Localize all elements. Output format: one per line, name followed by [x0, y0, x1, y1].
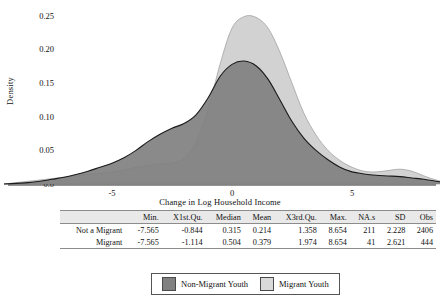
legend-item-non-migrant: Non-Migrant Youth	[162, 277, 248, 291]
table-cell: 0.214	[244, 224, 274, 237]
table-row: Not a Migrant -7.565 -0.844 0.315 0.214 …	[60, 224, 436, 237]
table-header-cell: X3rd.Qu.	[274, 211, 320, 224]
x-axis-label: Change in Log Household Income	[0, 197, 440, 207]
table-cell: -0.844	[162, 224, 206, 237]
density-curves	[0, 0, 440, 212]
table-cell: 0.315	[206, 224, 244, 237]
table-cell: 2.228	[378, 224, 408, 237]
legend-swatch-icon	[162, 277, 176, 291]
table-header-cell: Median	[206, 211, 244, 224]
plot-area: Density 0.25 0.20 0.15 0.10 0.05 0.0 -5 …	[0, 0, 440, 212]
summary-statistics-table: Min. X1st.Qu. Median Mean X3rd.Qu. Max. …	[60, 210, 436, 249]
table-header-cell: Obs	[408, 211, 436, 224]
chart-legend: Non-Migrant Youth Migrant Youth	[151, 273, 340, 295]
table-header-cell: NA.s	[350, 211, 378, 224]
table-header-cell: Mean	[244, 211, 274, 224]
table-header-cell: X1st.Qu.	[162, 211, 206, 224]
table-cell: -7.565	[128, 236, 161, 249]
legend-swatch-icon	[260, 277, 274, 291]
table-row-label: Not a Migrant	[60, 224, 128, 237]
table-cell: 1.358	[274, 224, 320, 237]
table-header-row: Min. X1st.Qu. Median Mean X3rd.Qu. Max. …	[60, 211, 436, 224]
table-cell: 0.504	[206, 236, 244, 249]
table-cell: 41	[350, 236, 378, 249]
density-figure: Density 0.25 0.20 0.15 0.10 0.05 0.0 -5 …	[0, 0, 440, 304]
table-cell: 0.379	[244, 236, 274, 249]
table-cell: 2.621	[378, 236, 408, 249]
table-row-label: Migrant	[60, 236, 128, 249]
legend-item-migrant: Migrant Youth	[260, 277, 329, 291]
legend-label: Migrant Youth	[279, 279, 329, 289]
table-row: Migrant -7.565 -1.114 0.504 0.379 1.974 …	[60, 236, 436, 249]
table-cell: 444	[408, 236, 436, 249]
table-cell: -1.114	[162, 236, 206, 249]
table-header-cell	[60, 211, 128, 224]
table-cell: 8.654	[320, 236, 350, 249]
table-header-cell: Min.	[128, 211, 161, 224]
table-cell: 211	[350, 224, 378, 237]
table-cell: 1.974	[274, 236, 320, 249]
legend-label: Non-Migrant Youth	[181, 279, 248, 289]
table-cell: 2406	[408, 224, 436, 237]
table-header-cell: SD	[378, 211, 408, 224]
table-cell: 8.654	[320, 224, 350, 237]
table-header-cell: Max.	[320, 211, 350, 224]
table-cell: -7.565	[128, 224, 161, 237]
